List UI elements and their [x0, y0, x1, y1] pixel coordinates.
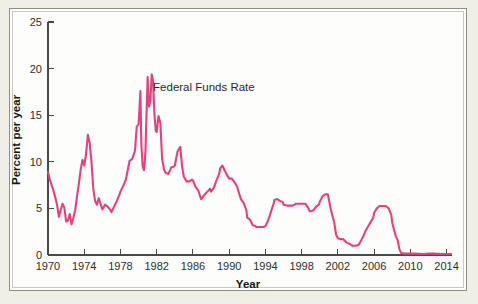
- y-tick-label: 25: [30, 16, 42, 28]
- figure-root: 0510152025 19701974197819821986199019941…: [0, 0, 478, 304]
- x-tick-label: 1998: [289, 260, 313, 272]
- data-series-group: [48, 74, 451, 254]
- y-tick-label: 15: [30, 109, 42, 121]
- data-line-federal-funds-rate: [48, 74, 451, 254]
- x-tick-label: 1974: [72, 260, 96, 272]
- x-axis-ticks: 1970197419781982198619901994199820022006…: [36, 249, 459, 272]
- x-tick-label: 1990: [217, 260, 241, 272]
- x-axis-title: Year: [236, 278, 261, 290]
- x-tick-label: 2002: [326, 260, 350, 272]
- federal-funds-rate-chart: 0510152025 19701974197819821986199019941…: [0, 0, 478, 304]
- x-tick-label: 1986: [181, 260, 205, 272]
- x-tick-label: 1970: [36, 260, 60, 272]
- y-tick-label: 5: [36, 202, 42, 214]
- y-axis-title: Percent per year: [10, 94, 22, 185]
- x-tick-label: 2010: [398, 260, 422, 272]
- x-tick-label: 1994: [253, 260, 277, 272]
- x-tick-label: 2014: [434, 260, 458, 272]
- x-tick-label: 1978: [108, 260, 132, 272]
- y-tick-label: 10: [30, 156, 42, 168]
- series-annotation-label: Federal Funds Rate: [153, 81, 255, 93]
- x-tick-label: 1982: [144, 260, 168, 272]
- x-tick-label: 2006: [362, 260, 386, 272]
- y-axis-ticks: 0510152025: [30, 16, 54, 261]
- y-tick-label: 20: [30, 63, 42, 75]
